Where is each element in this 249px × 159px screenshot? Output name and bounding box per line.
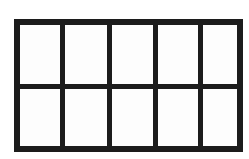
grid-cell-r2c1 bbox=[20, 89, 60, 146]
grid-cell-r1c4 bbox=[158, 25, 198, 84]
grid-cell-r2c3 bbox=[112, 89, 153, 146]
grid-cell-r1c2 bbox=[65, 25, 107, 84]
grid-figure bbox=[14, 19, 243, 152]
grid-cell-r2c5 bbox=[203, 89, 237, 146]
grid-cell-r1c5 bbox=[203, 25, 237, 84]
figure-canvas bbox=[0, 0, 249, 159]
grid-cell-r1c1 bbox=[20, 25, 60, 84]
grid-cell-r2c4 bbox=[158, 89, 198, 146]
grid-cell-r1c3 bbox=[112, 25, 153, 84]
grid-cell-r2c2 bbox=[65, 89, 107, 146]
